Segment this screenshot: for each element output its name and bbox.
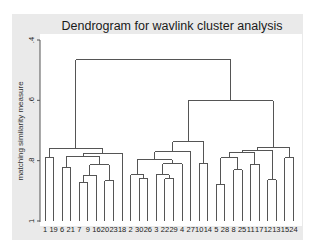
- leaf-label: 14: [204, 225, 212, 234]
- leaf-label: 25: [238, 225, 246, 234]
- leaf-label: 4: [180, 225, 184, 234]
- leaf-label: 30: [135, 225, 143, 234]
- dendrogram-chart: Dendrogram for wavlink cluster analysis …: [0, 0, 314, 249]
- leaf-label: 17: [255, 225, 263, 234]
- leaf-label: 1: [43, 225, 47, 234]
- leaf-label: 29: [169, 225, 177, 234]
- leaf-label: 6: [60, 225, 64, 234]
- leaf-label: 5: [214, 225, 218, 234]
- leaf-label: 20: [101, 225, 109, 234]
- leaf-label: 2: [129, 225, 133, 234]
- y-tick-label: .8: [27, 158, 36, 164]
- y-axis-label: matching similarity measure: [16, 81, 25, 181]
- leaf-label: 11: [247, 225, 255, 234]
- leaf-label: 27: [187, 225, 195, 234]
- leaf-label: 21: [67, 225, 75, 234]
- y-tick-label: .6: [27, 97, 36, 103]
- leaf-label: 8: [231, 225, 235, 234]
- leaf-label: 12: [264, 225, 272, 234]
- leaf-label: 28: [221, 225, 229, 234]
- leaf-label: 13: [272, 225, 280, 234]
- leaf-label: 24: [289, 225, 297, 234]
- leaf-labels: 1196217916202318230263222942710145288251…: [43, 225, 298, 234]
- leaf-label: 19: [49, 225, 57, 234]
- y-tick-label: 1: [27, 219, 36, 223]
- leaf-label: 3: [154, 225, 158, 234]
- y-tick-label: .4: [27, 37, 36, 43]
- leaf-label: 18: [118, 225, 126, 234]
- leaf-label: 9: [86, 225, 90, 234]
- y-ticks: .4.6.81: [27, 37, 40, 223]
- leaf-label: 16: [92, 225, 100, 234]
- chart-title: Dendrogram for wavlink cluster analysis: [62, 19, 283, 33]
- leaf-label: 15: [281, 225, 289, 234]
- leaf-label: 26: [144, 225, 152, 234]
- leaf-label: 10: [195, 225, 203, 234]
- leaf-label: 22: [161, 225, 169, 234]
- leaf-label: 7: [77, 225, 81, 234]
- leaf-label: 23: [109, 225, 117, 234]
